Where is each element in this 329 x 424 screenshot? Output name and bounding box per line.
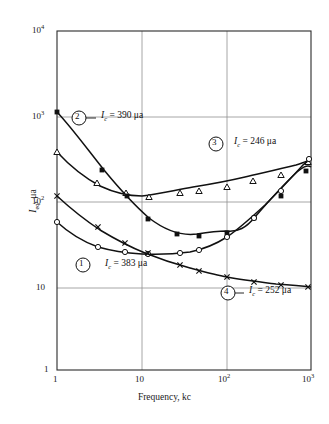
ytick-1000-exp: 3 xyxy=(41,109,44,116)
ytick-10: 10 xyxy=(36,282,45,292)
xtick-100-exp: 2 xyxy=(227,372,230,379)
xtick-1: 1 xyxy=(53,374,58,384)
series-1-markers xyxy=(54,156,311,256)
series-2-markers xyxy=(55,110,309,239)
series-3-markers xyxy=(54,149,311,200)
ytick-10000: 104 xyxy=(32,25,44,35)
xtick-100: 102 xyxy=(218,374,230,384)
ytick-1: 1 xyxy=(44,364,49,374)
series-1-value: = 383 xyxy=(111,258,138,268)
series-3-label: Ic = 246 μa xyxy=(234,136,276,146)
series-4-value: = 252 xyxy=(255,285,282,295)
grid-lines xyxy=(57,31,311,370)
series-4-curve xyxy=(57,196,311,287)
figure-container: 2 3 1 4 Ic = 390 μa Ic = 246 μa Ic = 383… xyxy=(0,0,329,424)
series-3-value: = 246 xyxy=(240,136,267,146)
series-3-unit: μa xyxy=(267,136,276,146)
annotation-callouts xyxy=(72,111,244,300)
series-1-label: Ic = 383 μa xyxy=(105,258,147,268)
series-2-curve xyxy=(57,112,311,234)
ytick-1000-base: 10 xyxy=(32,111,41,121)
series-4-label: Ic = 252 μa xyxy=(249,285,291,295)
series-2-unit: μa xyxy=(134,110,143,120)
ytick-1000: 103 xyxy=(32,111,44,121)
callout-number-1: 1 xyxy=(79,258,84,268)
series-1-curve xyxy=(57,159,311,254)
xtick-1000-base: 10 xyxy=(302,374,311,384)
ytick-100-exp: 2 xyxy=(41,194,44,201)
series-4-unit: μa xyxy=(282,285,291,295)
series-2-value: = 390 xyxy=(107,110,134,120)
plot-frame xyxy=(57,31,311,370)
series-1-unit: μa xyxy=(138,258,147,268)
xtick-1000: 103 xyxy=(302,374,314,384)
y-axis-unit: , μa xyxy=(28,189,38,203)
callout-number-3: 3 xyxy=(212,137,217,147)
series-2-label: Ic = 390 μa xyxy=(101,110,143,120)
xtick-10: 10 xyxy=(135,374,144,384)
callout-number-2: 2 xyxy=(75,111,80,121)
ytick-10000-exp: 4 xyxy=(41,23,44,30)
y-axis-subscript: eq xyxy=(33,203,40,209)
series-4-markers xyxy=(54,193,310,289)
callout-number-4: 4 xyxy=(224,286,229,296)
ytick-10000-base: 10 xyxy=(32,25,41,35)
xtick-100-base: 10 xyxy=(218,374,227,384)
y-axis-label: Ieq, μa xyxy=(28,166,38,236)
xtick-1000-exp: 3 xyxy=(311,372,314,379)
log-log-chart xyxy=(0,0,329,424)
x-axis-label: Frequency, kc xyxy=(0,392,329,402)
